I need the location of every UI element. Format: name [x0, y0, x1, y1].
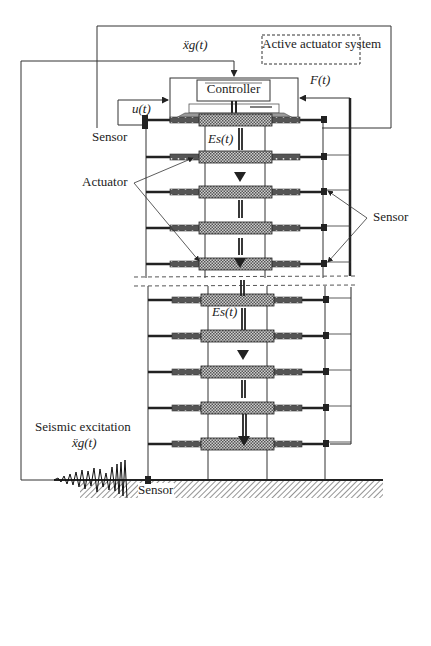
- sensor-top-left-label: Sensor: [92, 130, 127, 145]
- actuator-label: Actuator: [82, 175, 127, 190]
- floor-sensor: [321, 116, 327, 123]
- actuator-beam: [201, 402, 274, 414]
- actuator-pointers: [134, 158, 199, 261]
- ground-hatch: [80, 480, 383, 498]
- floors: [142, 114, 351, 450]
- floor-sensor: [321, 224, 327, 231]
- actuator-beam: [201, 438, 274, 450]
- sensor-right-label: Sensor: [373, 210, 408, 225]
- control-signal-label: u(t): [132, 102, 151, 117]
- floor-sensor: [321, 188, 327, 195]
- controller-label: Controller: [197, 82, 270, 97]
- floor-sensor: [321, 153, 327, 160]
- ground-accel-label-bottom: ẍg(t): [72, 436, 97, 451]
- ground-accel-label-top: ẍg(t): [183, 38, 208, 53]
- sensor-pointers: [328, 191, 367, 262]
- top-sensor: [142, 115, 148, 129]
- floor-sensor: [323, 332, 329, 339]
- force-label: F(t): [310, 73, 330, 88]
- energy-lower-label: Es(t): [212, 305, 237, 320]
- actuator-beam: [201, 330, 274, 342]
- ground-sensor-label: Sensor: [138, 483, 173, 498]
- floor-sensor: [323, 440, 329, 447]
- break-line-top: [134, 276, 358, 277]
- actuator-beam: [199, 114, 272, 126]
- energy-upper-label: Es(t): [208, 132, 233, 147]
- actuator-beam: [199, 151, 272, 163]
- active-actuator-system-label: Active actuator system: [262, 37, 360, 52]
- floor-sensor: [323, 296, 329, 303]
- floor-sensor: [323, 368, 329, 375]
- break-line-bottom: [134, 285, 358, 286]
- actuator-beam: [201, 366, 274, 378]
- seismic-excitation-label: Seismic excitation: [35, 420, 131, 435]
- actuator-beam: [199, 186, 272, 198]
- actuator-beam: [199, 222, 272, 234]
- floor-sensor: [323, 404, 329, 411]
- floor-sensor: [321, 260, 327, 267]
